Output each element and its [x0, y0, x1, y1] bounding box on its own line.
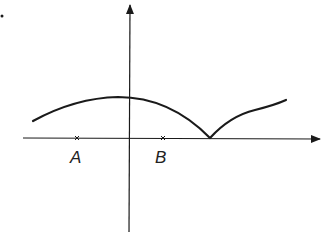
function-curve	[33, 97, 286, 138]
corner-mark	[1, 15, 4, 18]
point-b-label: B	[155, 148, 166, 167]
point-a-label: A	[69, 148, 81, 167]
y-axis	[129, 5, 130, 232]
graph-figure: A B	[0, 0, 333, 247]
x-axis	[23, 138, 320, 139]
